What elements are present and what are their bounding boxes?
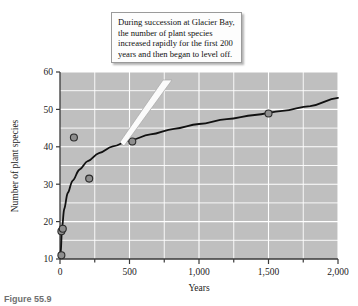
data-point [265, 110, 272, 117]
data-point [59, 225, 66, 232]
y-tick-label: 40 [44, 142, 54, 152]
y-tick-label: 10 [44, 254, 54, 264]
data-point [70, 134, 77, 141]
x-axis-tick-labels: 05001,0001,5002,000 [58, 267, 349, 277]
data-point [58, 252, 65, 259]
figure-container: 102030405060 05001,0001,5002,000 Years N… [0, 0, 358, 306]
x-tick-label: 500 [122, 267, 137, 277]
x-tick-label: 0 [58, 267, 63, 277]
x-axis-ticks [60, 259, 338, 264]
x-tick-label: 2,000 [327, 267, 349, 277]
data-point [86, 175, 93, 182]
x-tick-label: 1,500 [258, 267, 280, 277]
y-axis-tick-labels: 102030405060 [44, 67, 54, 264]
data-point [129, 138, 136, 145]
y-tick-label: 30 [44, 180, 54, 190]
callout-text: During succession at Glacier Bay, the nu… [118, 17, 235, 59]
figure-caption: Figure 55.9 [4, 294, 358, 306]
y-axis-title: Number of plant species [10, 119, 20, 212]
y-tick-label: 20 [44, 217, 54, 227]
y-tick-label: 50 [44, 105, 54, 115]
x-axis-title: Years [188, 283, 210, 293]
y-tick-label: 60 [44, 67, 54, 77]
x-tick-label: 1,000 [188, 267, 210, 277]
figure-number: Figure 55.9 [4, 294, 52, 304]
annotation-callout: During succession at Glacier Bay, the nu… [111, 12, 242, 63]
